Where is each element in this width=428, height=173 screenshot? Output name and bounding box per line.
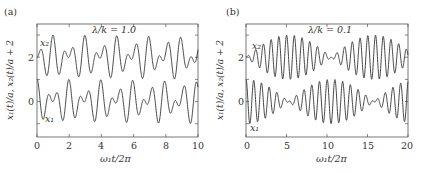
ylabel-b: x₁(t)/a, x₂(t)/a + 2 <box>215 30 225 130</box>
xlabel-b: ω₁t/2π <box>316 153 347 164</box>
xtick-b-1: 5 <box>284 140 290 151</box>
panel-b: (b) λ/k = 0.1 x₂ x₁ 2 0 0 5 10 15 20 ω₁t… <box>214 0 428 173</box>
ytick-2-a: 2 <box>28 52 34 63</box>
panel-a: (a) λ/k = 1.0 x₂ x₁ 2 0 0 2 4 6 8 10 ω₁t… <box>0 0 214 173</box>
ytick-0-a: 0 <box>28 96 34 107</box>
xtick-a-5: 10 <box>192 140 204 151</box>
ytick-2-b: 2 <box>238 52 244 63</box>
xtick-a-4: 8 <box>163 140 169 151</box>
panel-label-a: (a) <box>4 6 17 17</box>
annotation-b: λ/k = 0.1 <box>308 24 352 35</box>
series-label-x1-a: x₁ <box>45 113 54 124</box>
series-label-x2-b: x₂ <box>252 40 261 51</box>
xlabel-a: ω₁t/2π <box>100 153 131 164</box>
xtick-a-0: 0 <box>34 140 40 151</box>
ylabel-a: x₁(t)/a, x₂(t)/a + 2 <box>5 30 15 130</box>
ytick-0-b: 0 <box>238 96 244 107</box>
xtick-a-1: 2 <box>66 140 72 151</box>
xtick-a-2: 4 <box>98 140 104 151</box>
xtick-b-2: 10 <box>322 140 334 151</box>
panel-label-b: (b) <box>226 6 240 17</box>
annotation-a: λ/k = 1.0 <box>92 24 136 35</box>
xtick-b-4: 20 <box>401 140 413 151</box>
series-label-x2-a: x₂ <box>40 37 49 48</box>
xtick-a-3: 6 <box>131 140 137 151</box>
xtick-b-0: 0 <box>244 140 250 151</box>
series-label-x1-b: x₁ <box>250 122 259 133</box>
xtick-b-3: 15 <box>362 140 374 151</box>
